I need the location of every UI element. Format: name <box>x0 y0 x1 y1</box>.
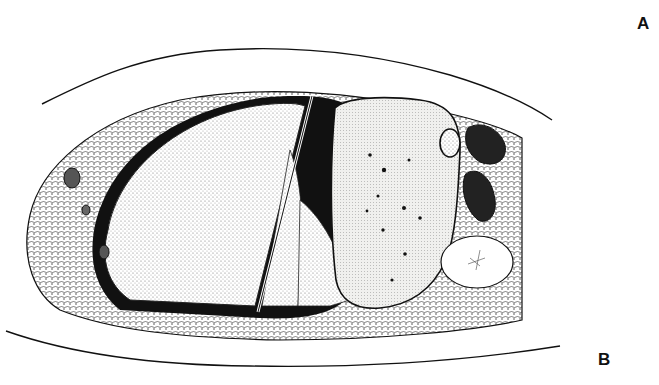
vessel-left-1 <box>64 168 80 188</box>
label-b: B <box>598 350 610 370</box>
anatomical-cross-section <box>0 0 659 385</box>
vessel-left-3 <box>99 245 109 259</box>
vessel-1 <box>440 129 460 157</box>
vessel-left-2 <box>82 205 90 215</box>
cross-section-drawing <box>0 0 659 385</box>
label-a: A <box>637 14 649 34</box>
vessel-4 <box>441 236 513 288</box>
